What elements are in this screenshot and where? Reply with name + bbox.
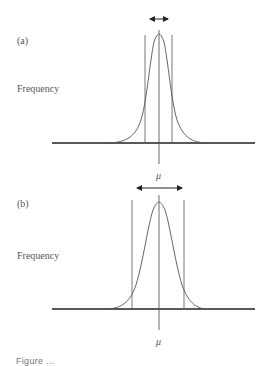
panel-b-mean-label: μ [156,337,161,347]
figure-caption: Figure ... [16,356,55,366]
panel-a [52,19,255,164]
panel-b [52,188,255,330]
panel-a-label: (a) [17,36,28,46]
panel-a-ylabel: Frequency [17,84,59,94]
panel-b-ylabel: Frequency [17,251,59,261]
panel-b-label: (b) [17,199,29,209]
panel-a-curve [110,34,205,143]
panel-b-curve [108,202,205,309]
panel-a-mean-label: μ [156,171,161,181]
